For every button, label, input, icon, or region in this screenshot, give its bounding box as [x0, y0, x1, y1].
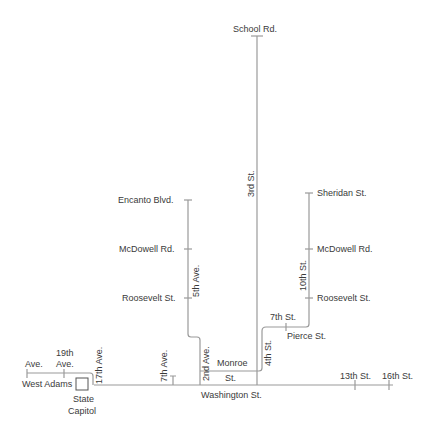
label-roosevelt-st-west: Roosevelt St.: [122, 293, 176, 303]
label-washington-st: Washington St.: [201, 390, 262, 400]
label-school-rd: School Rd.: [233, 24, 277, 34]
label-seventeenth-ave: 17th Ave.: [94, 347, 104, 384]
label-mcdowell-rd-west: McDowell Rd.: [119, 244, 175, 254]
label-encanto-blvd: Encanto Blvd.: [118, 195, 174, 205]
label-monroe-st-2: St.: [225, 373, 236, 383]
label-sixteenth-st: 16th St.: [382, 371, 413, 381]
label-state-capitol-2: Capitol: [68, 406, 96, 416]
label-fourth-st: 4th St.: [263, 340, 273, 366]
label-third-st: 3rd St.: [246, 170, 256, 197]
label-monroe-st-1: Monroe: [217, 358, 248, 368]
label-ave-partial: Ave.: [25, 359, 43, 369]
route-map-lines: [0, 0, 439, 437]
label-second-ave: 2nd Ave.: [201, 346, 211, 381]
label-nineteenth-ave-2: Ave.: [56, 359, 74, 369]
label-tenth-st: 10th St.: [298, 260, 308, 291]
label-nineteenth-ave-1: 19th: [56, 348, 74, 358]
label-sheridan-st: Sheridan St.: [317, 188, 367, 198]
label-thirteenth-st: 13th St.: [340, 371, 371, 381]
tenth-st-route: [200, 193, 309, 371]
label-pierce-st: Pierce St.: [287, 331, 326, 341]
label-mcdowell-rd-east: McDowell Rd.: [317, 244, 373, 254]
label-west-adams: West Adams: [22, 379, 72, 389]
state-capitol-icon: [76, 378, 88, 390]
label-fifth-ave: 5th Ave.: [191, 265, 201, 297]
label-seventh-st: 7th St.: [270, 312, 296, 322]
label-roosevelt-st-east: Roosevelt St.: [317, 293, 371, 303]
seventh-ave-tick: [170, 376, 176, 385]
label-state-capitol-1: State: [73, 394, 94, 404]
label-seventh-ave: 7th Ave.: [159, 350, 169, 382]
